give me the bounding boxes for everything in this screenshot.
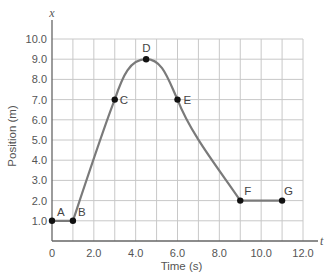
y-tick-label: 10.0	[26, 33, 47, 45]
position-time-chart: 02.04.06.08.010.012.0 1.02.03.04.05.06.0…	[0, 0, 328, 275]
x-tick-label: 2.0	[86, 247, 101, 259]
x-tick-label: 10.0	[250, 247, 271, 259]
data-point-c	[112, 96, 118, 102]
point-label-c: C	[120, 94, 128, 106]
y-tick-label: 1.0	[32, 215, 47, 227]
data-point-a	[49, 218, 55, 224]
point-label-a: A	[57, 206, 65, 218]
data-point-e	[174, 96, 180, 102]
data-point-f	[237, 197, 243, 203]
y-tick-label: 7.0	[32, 94, 47, 106]
point-label-f: F	[244, 185, 251, 197]
data-point-b	[70, 218, 76, 224]
y-tick-label: 8.0	[32, 73, 47, 85]
y-tick-label: 5.0	[32, 134, 47, 146]
y-tick-labels: 1.02.03.04.05.06.07.08.09.010.0	[26, 33, 47, 227]
x-tick-label: 12.0	[292, 247, 313, 259]
x-tick-label: 0	[49, 247, 55, 259]
x-tick-label: 6.0	[170, 247, 185, 259]
x-tick-label: 8.0	[212, 247, 227, 259]
x-axis-label: Time (s)	[161, 260, 203, 272]
y-tick-label: 6.0	[32, 114, 47, 126]
data-point-g	[279, 197, 285, 203]
point-label-b: B	[78, 206, 86, 218]
y-axis-label: Position (m)	[6, 105, 18, 167]
data-point-d	[143, 56, 149, 62]
point-label-g: G	[284, 185, 293, 197]
data-points: ABCDEFG	[49, 42, 293, 224]
point-label-d: D	[142, 42, 150, 54]
y-tick-label: 9.0	[32, 53, 47, 65]
axes	[52, 20, 318, 241]
point-label-e: E	[184, 94, 192, 106]
y-axis-variable: x	[48, 6, 55, 20]
y-tick-label: 2.0	[32, 195, 47, 207]
y-tick-label: 3.0	[32, 174, 47, 186]
grid	[52, 39, 303, 241]
x-tick-label: 4.0	[128, 247, 143, 259]
x-tick-labels: 02.04.06.08.010.012.0	[49, 247, 314, 259]
y-tick-label: 4.0	[32, 154, 47, 166]
x-axis-variable: t	[320, 234, 324, 248]
